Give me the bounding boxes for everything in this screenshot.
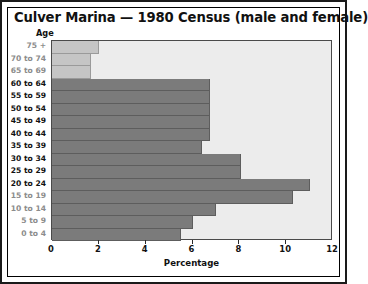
bar-row xyxy=(52,66,331,79)
y-tick-label: 0 to 4 xyxy=(21,230,46,238)
x-tick-label: 10 xyxy=(279,244,291,254)
y-tick-label: 30 to 34 xyxy=(11,155,46,163)
x-tick-label: 0 xyxy=(48,244,54,254)
y-tick-label: 75 + xyxy=(26,42,46,50)
bar-50-to-54 xyxy=(52,104,210,117)
y-tick-label: 70 to 74 xyxy=(11,55,46,63)
bar-20-to-24 xyxy=(52,179,310,192)
chart-title: Culver Marina — 1980 Census (male and fe… xyxy=(14,10,368,25)
bar-45-to-49 xyxy=(52,116,210,129)
bar-5-to-9 xyxy=(52,216,193,229)
bar-15-to-19 xyxy=(52,191,293,204)
y-axis-tick-labels: 75 +70 to 7465 to 6960 to 6455 to 5950 t… xyxy=(2,40,49,240)
y-tick-label: 25 to 29 xyxy=(11,167,46,175)
bar-row xyxy=(52,141,331,154)
bar-60-to-64 xyxy=(52,79,210,92)
bar-row xyxy=(52,166,331,179)
bar-35-to-39 xyxy=(52,141,202,154)
bar-row xyxy=(52,129,331,142)
bar-row xyxy=(52,179,331,192)
bar-75-plus xyxy=(52,41,99,54)
y-tick-label: 60 to 64 xyxy=(11,80,46,88)
x-tick-label: 12 xyxy=(326,244,338,254)
y-tick-label: 5 to 9 xyxy=(21,217,46,225)
y-tick-label: 65 to 69 xyxy=(11,67,46,75)
y-tick-label: 45 to 49 xyxy=(11,117,46,125)
bar-25-to-29 xyxy=(52,166,241,179)
x-axis-title: Percentage xyxy=(51,258,332,268)
y-axis-title: Age xyxy=(36,28,54,38)
x-axis-tick-labels: 024681012 xyxy=(51,244,332,256)
y-tick-label: 50 to 54 xyxy=(11,105,46,113)
x-tick-label: 2 xyxy=(95,244,101,254)
bar-70-to-74 xyxy=(52,54,91,67)
y-tick-label: 40 to 44 xyxy=(11,130,46,138)
bar-10-to-14 xyxy=(52,204,216,217)
y-tick-label: 10 to 14 xyxy=(11,205,46,213)
x-tick-label: 8 xyxy=(235,244,241,254)
bar-row xyxy=(52,204,331,217)
bar-row xyxy=(52,41,331,54)
plot-area xyxy=(51,40,332,240)
bar-row xyxy=(52,216,331,229)
bar-row xyxy=(52,79,331,92)
bar-40-to-44 xyxy=(52,129,210,142)
x-tick-label: 4 xyxy=(142,244,148,254)
bar-row xyxy=(52,54,331,67)
bar-row xyxy=(52,191,331,204)
y-tick-label: 35 to 39 xyxy=(11,142,46,150)
x-tick-label: 6 xyxy=(189,244,195,254)
y-tick-label: 15 to 19 xyxy=(11,192,46,200)
bar-row xyxy=(52,116,331,129)
bar-row xyxy=(52,104,331,117)
bar-row xyxy=(52,154,331,167)
y-tick-label: 20 to 24 xyxy=(11,180,46,188)
y-tick-label: 55 to 59 xyxy=(11,92,46,100)
bar-row xyxy=(52,91,331,104)
bar-65-to-69 xyxy=(52,66,91,79)
bar-30-to-34 xyxy=(52,154,241,167)
bar-55-to-59 xyxy=(52,91,210,104)
